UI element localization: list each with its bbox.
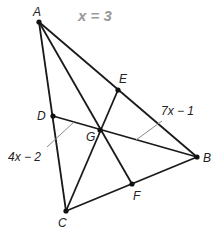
label-F: F bbox=[133, 189, 141, 203]
point-G-centroid bbox=[97, 127, 102, 132]
point-C bbox=[63, 208, 68, 213]
median-AF bbox=[39, 22, 132, 184]
label-A: A bbox=[32, 5, 41, 19]
point-A bbox=[36, 19, 41, 24]
measure-DG-expression: 4x − 2 bbox=[8, 150, 41, 164]
median-DB bbox=[53, 116, 197, 157]
label-C: C bbox=[58, 216, 67, 230]
measure-GB-expression: 7x − 1 bbox=[161, 104, 194, 118]
label-G: G bbox=[86, 130, 95, 144]
leader-line-GB bbox=[136, 121, 162, 140]
triangle-centroid-diagram: x = 3 A B C D E F G 4x − 2 7x − 1 bbox=[0, 0, 215, 241]
label-B: B bbox=[203, 151, 211, 165]
label-D: D bbox=[37, 109, 46, 123]
point-D bbox=[50, 113, 55, 118]
point-E bbox=[115, 87, 120, 92]
point-F bbox=[129, 181, 134, 186]
label-E: E bbox=[119, 72, 128, 86]
leader-line-DG bbox=[47, 122, 74, 147]
equation-label: x = 3 bbox=[77, 7, 112, 24]
point-B bbox=[194, 154, 199, 159]
